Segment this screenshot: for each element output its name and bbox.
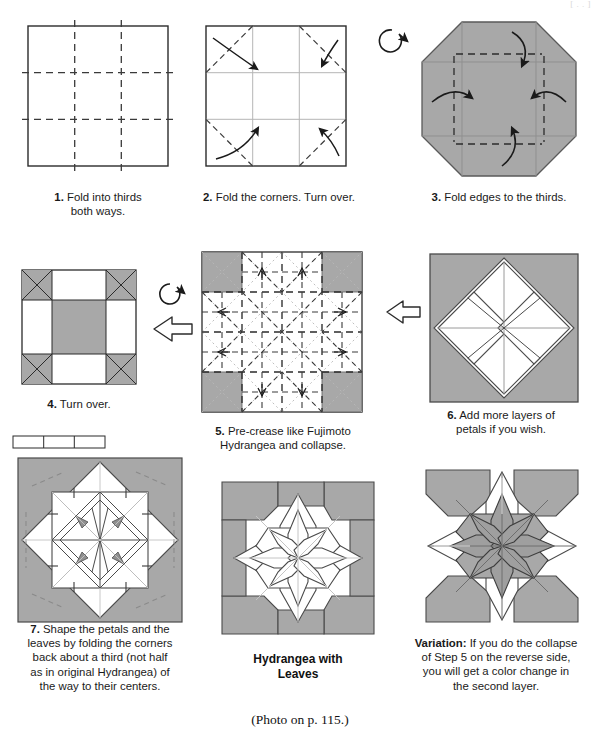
variation-caption-line-3: you will get a color change in — [396, 664, 596, 678]
variation-diagram — [414, 458, 590, 634]
step7-caption: 7. Shape the petals and the leaves by fo… — [2, 622, 198, 693]
page-top-faint-text: [ . . ] — [570, 0, 591, 9]
step3-number: 3. — [432, 191, 442, 203]
result-label: Hydrangea with Leaves — [214, 652, 382, 682]
step5-number: 5. — [215, 425, 225, 437]
square-thirds-grid — [22, 20, 174, 172]
variation-caption: Variation: If you do the collapse of Ste… — [396, 636, 596, 693]
step6-caption-line-2: petals if you wish. — [406, 422, 596, 436]
color-change-flower — [418, 462, 586, 630]
step6-caption: 6. Add more layers of petals if you wish… — [406, 408, 596, 436]
step4-caption: 4. Turn over. — [8, 397, 150, 411]
variation-lead: Variation: — [415, 637, 467, 649]
finished-eight-petal-flower — [216, 476, 380, 640]
proceed-arrow-2 — [384, 296, 424, 328]
result-label-line-1: Hydrangea with — [214, 652, 382, 667]
step1-caption: 1. 1. Fold into thirdsFold into thirds b… — [8, 190, 188, 218]
step7-caption-line-3: back about a third (not half — [2, 650, 198, 664]
turn-over-icon-1 — [372, 22, 418, 58]
step2-number: 2. — [203, 191, 213, 203]
step5-caption-line-2: Hydrangea and collapse. — [178, 438, 388, 452]
step4-caption-line-1: Turn over. — [60, 398, 111, 410]
step4-number: 4. — [47, 398, 57, 410]
step1-text-1: Fold into thirds — [67, 191, 142, 203]
step3-caption: 3. Fold edges to the thirds. — [400, 190, 598, 204]
instruction-page: [ . . ] 1. 1. Fold into thirdsFold into … — [0, 0, 599, 744]
variation-caption-line-1: If you do the collapse — [470, 637, 578, 649]
step2-diagram — [196, 16, 356, 186]
step2-caption-line-1: Fold the corners. Turn over. — [216, 191, 355, 203]
gray-octagon-edge-arrows — [422, 22, 576, 176]
step2-caption: 2. Fold the corners. Turn over. — [186, 190, 372, 204]
step7-caption-line-1: Shape the petals and the — [43, 623, 170, 635]
step7-diagram — [12, 452, 188, 628]
step6-number: 6. — [447, 409, 457, 421]
thirds-measure-bracket — [12, 434, 108, 450]
step5-caption: 5. Pre-crease like Fujimoto Hydrangea an… — [178, 424, 388, 452]
step1-caption-line-2: both ways. — [8, 204, 188, 218]
result-diagram — [212, 472, 384, 644]
step5-caption-line-1: Pre-crease like Fujimoto — [228, 425, 351, 437]
step3-caption-line-1: Fold edges to the thirds. — [444, 191, 566, 203]
step4-diagram — [14, 262, 144, 392]
shaped-model-with-bracket — [18, 458, 182, 622]
step7-caption-line-5: the way to their centers. — [2, 679, 198, 693]
fujimoto-precrease-pattern — [202, 252, 362, 412]
step7-caption-line-2: leaves by folding the corners — [2, 636, 198, 650]
step3-diagram — [414, 14, 584, 189]
photo-note: (Photo on p. 115.) — [190, 712, 410, 728]
step1-number: 1. — [54, 191, 64, 203]
three-by-three-gray-corners — [22, 270, 136, 384]
step6-caption-line-1: Add more layers of — [459, 409, 555, 421]
step6-diagram — [424, 248, 584, 408]
square-corner-folds-arrows — [206, 26, 346, 166]
step7-number: 7. — [30, 623, 40, 635]
result-label-line-2: Leaves — [214, 667, 382, 682]
turn-over-icon-2 — [152, 276, 198, 310]
step5-diagram — [196, 246, 368, 418]
variation-caption-line-4: the second layer. — [396, 679, 596, 693]
gray-square-white-diamond — [430, 254, 578, 402]
step7-caption-line-4: as in original Hydrangea) of — [2, 665, 198, 679]
variation-caption-line-2: of Step 5 on the reverse side, — [396, 650, 596, 664]
step1-diagram — [18, 16, 178, 186]
proceed-arrow-1 — [150, 312, 198, 346]
